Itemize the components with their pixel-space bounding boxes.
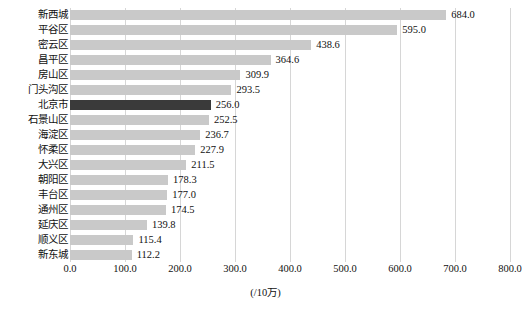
category-label-平谷区: 平谷区 <box>0 25 68 35</box>
x-tick-label: 500.0 <box>333 264 357 275</box>
bar-value-label: 364.6 <box>276 55 300 66</box>
x-axis-unit-label: (/10万) <box>0 288 531 299</box>
bar-row: 115.4 <box>70 235 510 245</box>
plot-area: 684.0595.0438.6364.6309.9293.5256.0252.5… <box>70 8 510 262</box>
bar-怀柔区 <box>70 145 195 155</box>
category-axis: 新西城平谷区密云区昌平区房山区门头沟区北京市石景山区海淀区怀柔区大兴区朝阳区丰台… <box>0 8 68 262</box>
bar-value-label: 293.5 <box>236 85 260 96</box>
bar-row: 112.2 <box>70 250 510 260</box>
bar-row: 139.8 <box>70 220 510 230</box>
bar-门头沟区 <box>70 85 231 95</box>
bar-海淀区 <box>70 130 200 140</box>
bar-北京市 <box>70 100 211 110</box>
x-tick-label: 600.0 <box>388 264 412 275</box>
category-label-怀柔区: 怀柔区 <box>0 145 68 155</box>
category-label-北京市: 北京市 <box>0 100 68 110</box>
bar-row: 211.5 <box>70 160 510 170</box>
category-label-新东城: 新东城 <box>0 250 68 260</box>
bar-value-label: 178.3 <box>173 175 197 186</box>
category-label-顺义区: 顺义区 <box>0 235 68 245</box>
bar-value-label: 112.2 <box>137 250 160 261</box>
bar-chart-figure: 684.0595.0438.6364.6309.9293.5256.0252.5… <box>0 0 531 320</box>
bar-row: 256.0 <box>70 100 510 110</box>
category-label-昌平区: 昌平区 <box>0 55 68 65</box>
category-label-门头沟区: 门头沟区 <box>0 85 68 95</box>
bar-value-label: 115.4 <box>138 235 161 246</box>
bar-大兴区 <box>70 160 186 170</box>
bar-value-label: 684.0 <box>451 10 475 21</box>
bar-value-label: 309.9 <box>245 70 269 81</box>
category-label-房山区: 房山区 <box>0 70 68 80</box>
category-label-丰台区: 丰台区 <box>0 190 68 200</box>
category-label-密云区: 密云区 <box>0 40 68 50</box>
bar-value-label: 438.6 <box>316 40 340 51</box>
bar-value-label: 595.0 <box>402 25 426 36</box>
category-label-延庆区: 延庆区 <box>0 220 68 230</box>
bar-通州区 <box>70 205 166 215</box>
bar-rows: 684.0595.0438.6364.6309.9293.5256.0252.5… <box>70 8 510 262</box>
bar-value-label: 139.8 <box>152 220 176 231</box>
category-label-石景山区: 石景山区 <box>0 115 68 125</box>
bar-row: 178.3 <box>70 175 510 185</box>
bar-顺义区 <box>70 235 133 245</box>
bar-row: 252.5 <box>70 115 510 125</box>
bar-row: 309.9 <box>70 70 510 80</box>
bar-value-label: 177.0 <box>172 190 196 201</box>
bar-row: 364.6 <box>70 55 510 65</box>
bar-row: 293.5 <box>70 85 510 95</box>
x-tick-label: 700.0 <box>443 264 467 275</box>
x-tick-label: 300.0 <box>223 264 247 275</box>
bar-row: 595.0 <box>70 25 510 35</box>
bar-房山区 <box>70 70 240 80</box>
bar-昌平区 <box>70 55 271 65</box>
category-label-通州区: 通州区 <box>0 205 68 215</box>
bar-value-label: 256.0 <box>216 100 240 111</box>
bar-新西城 <box>70 10 446 20</box>
category-label-海淀区: 海淀区 <box>0 130 68 140</box>
bar-row: 236.7 <box>70 130 510 140</box>
x-tick-label: 400.0 <box>278 264 302 275</box>
bar-row: 684.0 <box>70 10 510 20</box>
bar-value-label: 227.9 <box>200 145 224 156</box>
x-axis-tick-labels: 0.0100.0200.0300.0400.0500.0600.0700.080… <box>70 264 510 278</box>
category-label-大兴区: 大兴区 <box>0 160 68 170</box>
bar-value-label: 174.5 <box>171 205 195 216</box>
bar-value-label: 211.5 <box>191 160 214 171</box>
bar-石景山区 <box>70 115 209 125</box>
x-tick-label: 200.0 <box>168 264 192 275</box>
category-label-新西城: 新西城 <box>0 10 68 20</box>
x-tick-label: 0.0 <box>63 264 76 275</box>
gridline-800.0 <box>510 8 511 262</box>
bar-朝阳区 <box>70 175 168 185</box>
bar-value-label: 252.5 <box>214 115 238 126</box>
bar-row: 438.6 <box>70 40 510 50</box>
category-label-朝阳区: 朝阳区 <box>0 175 68 185</box>
bar-row: 227.9 <box>70 145 510 155</box>
bar-密云区 <box>70 40 311 50</box>
bar-延庆区 <box>70 220 147 230</box>
bar-row: 177.0 <box>70 190 510 200</box>
bar-row: 174.5 <box>70 205 510 215</box>
bar-新东城 <box>70 250 132 260</box>
bar-平谷区 <box>70 25 397 35</box>
x-tick-label: 100.0 <box>113 264 137 275</box>
bar-value-label: 236.7 <box>205 130 229 141</box>
x-tick-label: 800.0 <box>498 264 522 275</box>
bar-丰台区 <box>70 190 167 200</box>
